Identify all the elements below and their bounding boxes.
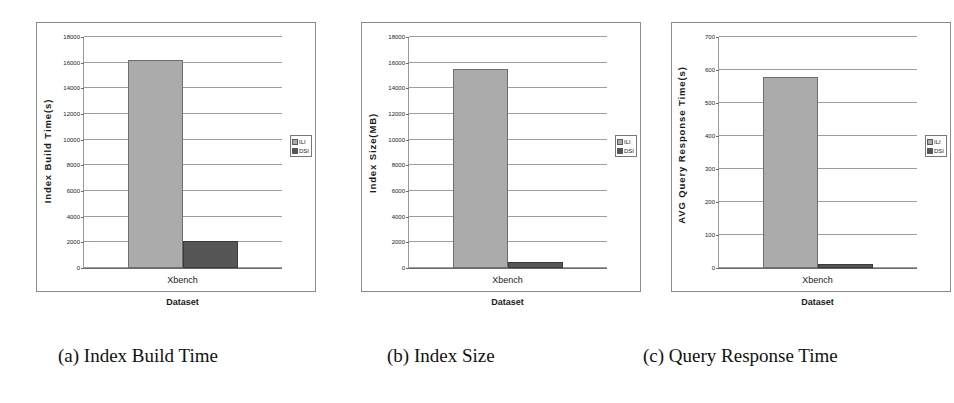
caption-b: (b) Index Size [387,342,495,370]
plot-wrap-a: 0200040006000800010000120001400016000180… [83,37,282,269]
legend-item-ili: ILI [927,137,944,146]
legend-swatch-ili-icon [927,139,933,145]
legend-swatch-ili-icon [292,139,298,145]
bars-a [84,37,282,268]
legend-label-ili: ILI [624,138,631,146]
y-tick-label: 4000 [67,214,80,220]
plot-area-c: 0100200300400500600700 [718,37,917,269]
legend-item-dsi: DSI [292,146,309,155]
legend-item-ili: ILI [292,137,309,146]
chart-panel-c: AVG Query Response Time(s) 0100200300400… [671,22,951,322]
y-tick-label: 0 [77,265,80,271]
y-tick-label: 4000 [392,214,405,220]
y-tick-label: 100 [705,232,715,238]
x-axis-title-c: Dataset [718,297,917,307]
y-tick-label: 0 [712,265,715,271]
y-tick-label: 14000 [63,85,80,91]
legend-b: ILI DSI [615,135,637,157]
x-axis-title-a: Dataset [83,297,282,307]
legend-swatch-ili-icon [617,139,623,145]
bar-ili [128,60,183,268]
y-tick-label: 10000 [388,137,405,143]
legend-label-dsi: DSI [934,147,944,155]
y-tick-mark [406,268,409,269]
legend-label-ili: ILI [934,138,941,146]
y-axis-title-a: Index Build Time(s) [39,31,57,271]
y-axis-title-c: AVG Query Response Time(s) [673,25,691,265]
legend-a: ILI DSI [290,135,312,157]
y-tick-label: 400 [705,133,715,139]
legend-label-ili: ILI [299,138,306,146]
captions-row: (a) Index Build Time (b) Index Size (c) … [0,342,954,382]
y-tick-label: 6000 [392,188,405,194]
y-tick-label: 0 [402,265,405,271]
y-tick-label: 200 [705,199,715,205]
y-tick-label: 10000 [63,137,80,143]
chart-frame-b: Index Size(MB) 0200040006000800010000120… [361,22,641,292]
bar-ili [453,69,508,268]
bar-dsi [183,241,238,268]
y-tick-label: 12000 [388,111,405,117]
category-label-a: Xbench [83,275,282,285]
bar-dsi [508,262,563,268]
y-tick-label: 16000 [388,60,405,66]
y-tick-label: 14000 [388,85,405,91]
chart-panel-b: Index Size(MB) 0200040006000800010000120… [361,22,641,322]
y-tick-label: 8000 [392,162,405,168]
chart-panel-a: Index Build Time(s) 02000400060008000100… [36,22,316,322]
y-tick-label: 300 [705,166,715,172]
legend-label-dsi: DSI [299,147,309,155]
y-tick-label: 16000 [63,60,80,66]
caption-a: (a) Index Build Time [58,342,218,370]
bars-b [409,37,607,268]
legend-item-dsi: DSI [617,146,634,155]
legend-label-dsi: DSI [624,147,634,155]
legend-swatch-dsi-icon [292,148,298,154]
bar-ili [763,77,818,268]
y-tick-mark [716,268,719,269]
y-tick-label: 18000 [63,34,80,40]
plot-area-b: 0200040006000800010000120001400016000180… [408,37,607,269]
y-tick-label: 2000 [392,239,405,245]
legend-item-ili: ILI [617,137,634,146]
y-tick-label: 600 [705,67,715,73]
chart-frame-a: Index Build Time(s) 02000400060008000100… [36,22,316,292]
legend-swatch-dsi-icon [927,148,933,154]
legend-swatch-dsi-icon [617,148,623,154]
chart-frame-c: AVG Query Response Time(s) 0100200300400… [671,22,951,292]
plot-wrap-c: 0100200300400500600700 [718,37,917,269]
plot-wrap-b: 0200040006000800010000120001400016000180… [408,37,607,269]
category-label-b: Xbench [408,275,607,285]
plot-area-a: 0200040006000800010000120001400016000180… [83,37,282,269]
caption-c: (c) Query Response Time [643,342,838,370]
bars-c [719,37,917,268]
y-tick-label: 500 [705,100,715,106]
y-tick-label: 2000 [67,239,80,245]
y-tick-label: 8000 [67,162,80,168]
legend-c: ILI DSI [925,135,947,157]
x-axis-title-b: Dataset [408,297,607,307]
legend-item-dsi: DSI [927,146,944,155]
figure-row: Index Build Time(s) 02000400060008000100… [0,0,954,340]
category-label-c: Xbench [718,275,917,285]
y-tick-mark [81,268,84,269]
y-tick-label: 700 [705,34,715,40]
y-tick-label: 18000 [388,34,405,40]
bar-dsi [818,264,873,268]
y-axis-title-b: Index Size(MB) [364,33,382,273]
y-tick-label: 6000 [67,188,80,194]
y-tick-label: 12000 [63,111,80,117]
